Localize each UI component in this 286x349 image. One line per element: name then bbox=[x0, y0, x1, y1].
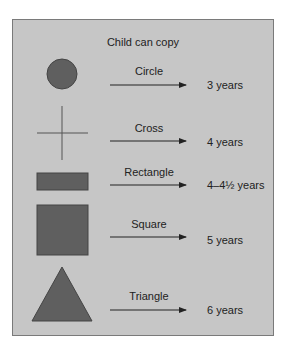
age-cross: 4 years bbox=[207, 136, 243, 148]
age-rectangle: 4–4½ years bbox=[207, 179, 264, 191]
age-triangle: 6 years bbox=[207, 304, 243, 316]
age-circle: 3 years bbox=[207, 79, 243, 91]
label-rectangle: Rectangle bbox=[104, 166, 194, 178]
cross-shape bbox=[37, 106, 88, 160]
square-shape bbox=[37, 205, 88, 255]
triangle-shape bbox=[32, 267, 92, 321]
age-square: 5 years bbox=[207, 234, 243, 246]
label-cross: Cross bbox=[104, 122, 194, 134]
label-circle: Circle bbox=[104, 65, 194, 77]
label-square: Square bbox=[104, 218, 194, 230]
label-triangle: Triangle bbox=[104, 290, 194, 302]
circle-shape bbox=[47, 59, 77, 89]
rectangle-shape bbox=[37, 173, 88, 190]
